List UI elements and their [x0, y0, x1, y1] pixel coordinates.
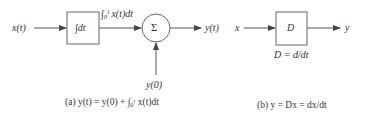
integrator-label: ∫dt	[75, 23, 86, 33]
caption-b: (b) y = Dx = dx/dt	[257, 101, 327, 111]
sum-symbol: Σ	[151, 22, 157, 33]
integral-label: ∫₀ᵗ x(t)dt	[101, 9, 133, 19]
operator-def: D = d/dt	[274, 50, 309, 60]
block-label-d: D	[287, 23, 294, 33]
initial-label: y(0)	[146, 80, 162, 90]
output-label-b: y	[345, 23, 349, 33]
output-label-a: y(t)	[205, 23, 219, 33]
caption-a: (a) y(t) = y(0) + ∫₀ᵗ x(t)dt	[65, 98, 159, 108]
input-label-a: x(t)	[12, 23, 26, 33]
input-label-b: x	[235, 23, 239, 33]
